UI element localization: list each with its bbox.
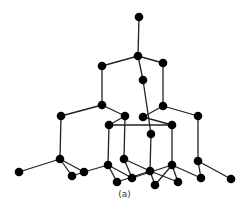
bond — [19, 159, 60, 172]
atom — [139, 113, 148, 122]
atom — [194, 112, 203, 121]
bond — [108, 125, 109, 165]
bond — [60, 116, 61, 159]
atom — [128, 174, 137, 183]
atom — [104, 161, 113, 170]
atom — [139, 76, 148, 85]
atom — [105, 121, 114, 130]
bond — [124, 116, 125, 159]
atom — [174, 178, 183, 187]
atom — [147, 130, 156, 139]
atom — [194, 157, 203, 166]
bond — [102, 56, 138, 66]
bond — [143, 80, 151, 134]
atom — [57, 112, 66, 121]
atom — [227, 175, 236, 184]
atom — [168, 161, 177, 170]
bond — [150, 171, 178, 182]
diamond-lattice-diagram — [0, 0, 249, 216]
bond — [163, 106, 198, 116]
atom — [68, 172, 77, 181]
atom — [168, 121, 177, 130]
atom — [120, 155, 129, 164]
atom — [98, 62, 107, 71]
bond — [61, 105, 102, 116]
figure-caption: (a) — [0, 189, 249, 199]
atom — [134, 52, 143, 61]
atom — [146, 167, 155, 176]
atom — [98, 101, 107, 110]
atom — [15, 168, 24, 177]
bond — [138, 17, 139, 56]
bond — [150, 134, 151, 171]
atom — [80, 168, 89, 177]
atom — [113, 178, 122, 187]
atom — [197, 174, 206, 183]
atom — [56, 155, 65, 164]
bond — [143, 117, 172, 125]
atom — [151, 181, 160, 190]
atom — [121, 112, 130, 121]
atom — [159, 59, 168, 68]
atom — [135, 13, 144, 22]
atom — [159, 102, 168, 111]
